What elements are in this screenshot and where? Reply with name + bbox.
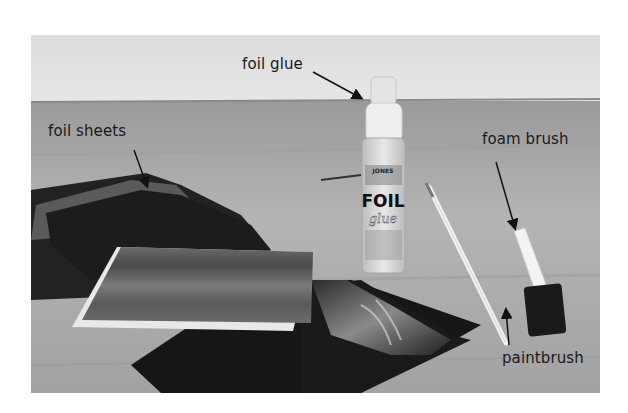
bottle-subtitle: glue xyxy=(369,211,398,226)
foil-glue-bottle: JONES FOIL glue xyxy=(361,77,405,273)
label-paintbrush: paintbrush xyxy=(502,349,584,367)
bottle-brand: JONES xyxy=(372,167,394,175)
bottle-title: FOIL xyxy=(361,191,404,211)
photo-scene: JONES FOIL glue xyxy=(31,35,600,393)
supplies-photo: JONES FOIL glue xyxy=(31,35,600,393)
label-foam-brush: foam brush xyxy=(482,130,569,148)
label-foil-sheets: foil sheets xyxy=(48,122,126,140)
label-foil-glue: foil glue xyxy=(242,55,303,73)
foil-sheet-front xyxy=(82,247,313,323)
wall-background xyxy=(31,35,600,102)
